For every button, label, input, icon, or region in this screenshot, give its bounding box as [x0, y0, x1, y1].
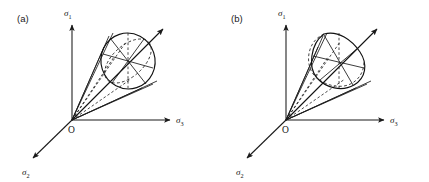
panel-b-origin-label: O — [282, 125, 289, 135]
figure-background — [0, 0, 429, 182]
panel-a-label: (a) — [17, 13, 29, 24]
panel-a-origin-label: O — [68, 125, 75, 135]
sigma-3-subscript: 3 — [394, 120, 397, 127]
sigma-1-subscript: 1 — [68, 13, 71, 20]
sigma-2-subscript: 2 — [240, 172, 243, 179]
sigma-2-subscript: 2 — [26, 172, 29, 179]
yield-surface-figure: (a) σ1 σ3 σ2 O — [0, 0, 429, 182]
sigma-1-subscript: 1 — [282, 13, 285, 20]
panel-b-label: (b) — [231, 13, 243, 24]
sigma-3-subscript: 3 — [180, 120, 183, 127]
